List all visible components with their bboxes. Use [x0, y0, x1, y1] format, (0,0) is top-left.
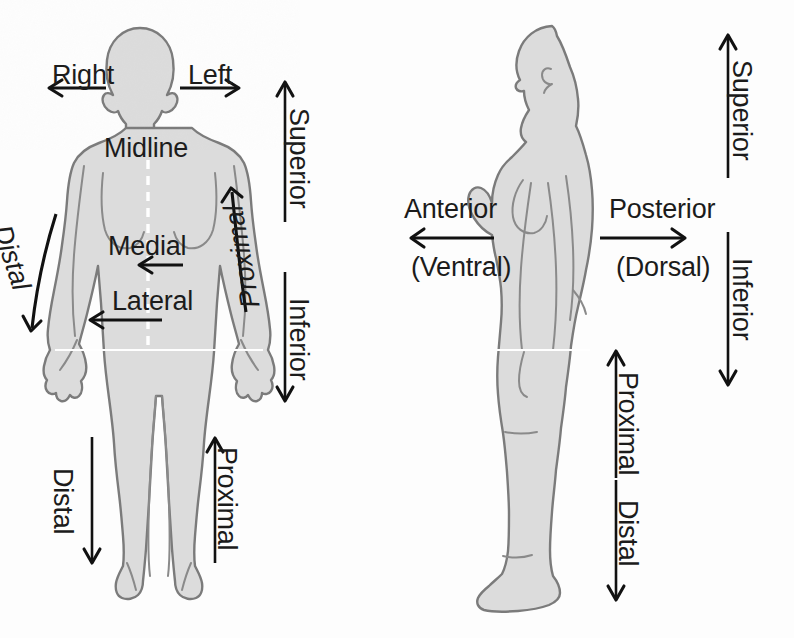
distal-leg-arrow-anterior	[84, 437, 100, 563]
label-left: Left	[188, 62, 232, 89]
label-dorsal: (Dorsal)	[616, 254, 710, 281]
label-superior-anterior: Superior	[285, 108, 312, 208]
anterior-arrow	[411, 229, 494, 247]
label-distal-leg-lateral: Distal	[614, 500, 641, 566]
label-lateral: Lateral	[112, 288, 193, 315]
label-anterior: Anterior	[404, 196, 497, 223]
label-midline: Midline	[104, 135, 188, 162]
arrows-layer	[0, 0, 794, 638]
posterior-arrow	[600, 229, 685, 247]
label-inferior-lateral: Inferior	[728, 258, 755, 340]
label-medial: Medial	[108, 233, 186, 260]
label-distal-leg-anterior: Distal	[49, 468, 76, 534]
label-proximal-leg-lateral: Proximal	[614, 372, 641, 475]
label-superior-lateral: Superior	[728, 60, 755, 160]
label-posterior: Posterior	[609, 196, 715, 223]
label-inferior-anterior: Inferior	[285, 298, 312, 380]
label-right: Right	[52, 62, 114, 89]
anatomical-directions-diagram: Right Left Midline Medial Lateral Distal…	[0, 0, 794, 638]
label-ventral: (Ventral)	[411, 254, 511, 281]
label-proximal-leg-anterior: Proximal	[213, 447, 240, 550]
